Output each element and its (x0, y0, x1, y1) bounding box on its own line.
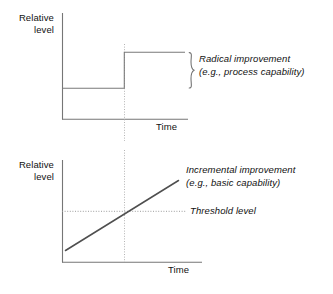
threshold-level-label: Threshold level (190, 205, 310, 218)
x-axis-label-bottom: Time (168, 264, 189, 275)
improvement-diagram: Relative level Time Radical improvement … (0, 0, 333, 294)
radical-improvement-annotation: Radical improvement (e.g., process capab… (199, 53, 331, 78)
incremental-growth-curve (66, 181, 179, 251)
brace-icon (189, 53, 194, 88)
incremental-improvement-annotation: Incremental improvement (e.g., basic cap… (186, 164, 332, 189)
diagram-canvas (0, 0, 333, 294)
radical-step-curve (62, 52, 185, 88)
y-axis-label-top: Relative level (2, 12, 54, 36)
chart-incremental-improvement (62, 150, 202, 263)
x-axis-label-top: Time (156, 121, 177, 132)
y-axis-label-bottom: Relative level (2, 159, 54, 183)
